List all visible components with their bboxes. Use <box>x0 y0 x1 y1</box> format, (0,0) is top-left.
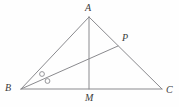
geometry-diagram: A B C M P <box>0 0 179 107</box>
vertex-label-a: A <box>85 3 91 13</box>
vertex-label-m: M <box>85 93 93 103</box>
side-ab <box>21 17 89 89</box>
geometry-canvas <box>0 0 179 107</box>
side-ac <box>89 17 162 89</box>
angle-mark-pbc <box>45 79 50 84</box>
vertex-label-p: P <box>122 33 128 43</box>
angle-marks-group <box>40 72 50 84</box>
vertex-label-b: B <box>5 83 11 93</box>
cevian-bp <box>21 46 118 89</box>
segments-group <box>21 17 162 89</box>
angle-mark-abp <box>40 72 45 77</box>
vertex-label-c: C <box>166 85 173 95</box>
